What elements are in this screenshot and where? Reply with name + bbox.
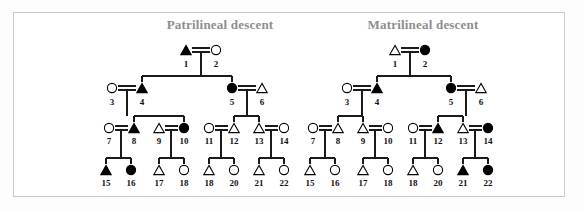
individual-id-label: 6	[260, 97, 265, 107]
individual-matrilineal-13[interactable]: 13	[458, 123, 468, 146]
symbol-male-affected[interactable]	[181, 45, 191, 54]
individual-patrilineal-22[interactable]: 22	[279, 165, 289, 188]
individual-matrilineal-1[interactable]: 1	[390, 45, 400, 69]
symbol-male-unaffected[interactable]	[333, 123, 343, 132]
individual-patrilineal-14[interactable]: 14	[279, 123, 289, 146]
mating-connector	[118, 86, 136, 116]
individual-matrilineal-21[interactable]: 21	[458, 165, 468, 188]
symbol-male-affected[interactable]	[101, 165, 111, 174]
individual-patrilineal-16[interactable]: 16	[126, 165, 136, 188]
symbol-male-unaffected[interactable]	[358, 123, 368, 132]
sibship-connector	[142, 76, 232, 82]
symbol-female-unaffected[interactable]	[104, 123, 113, 132]
symbol-female-unaffected[interactable]	[279, 123, 288, 132]
individual-matrilineal-22[interactable]: 22	[483, 165, 493, 188]
symbol-male-unaffected[interactable]	[154, 165, 164, 174]
individual-matrilineal-15[interactable]: 15	[305, 165, 315, 188]
individual-matrilineal-18[interactable]: 18	[383, 165, 393, 188]
individual-patrilineal-4[interactable]: 4	[137, 83, 147, 107]
symbol-male-unaffected[interactable]	[408, 165, 418, 174]
individual-patrilineal-10[interactable]: 10	[179, 123, 189, 146]
individual-matrilineal-4[interactable]: 4	[372, 83, 382, 107]
symbol-male-unaffected[interactable]	[458, 123, 468, 132]
symbol-male-unaffected[interactable]	[257, 83, 267, 92]
individual-id-label: 10	[180, 136, 190, 146]
individual-matrilineal-8[interactable]: 8	[333, 123, 343, 146]
symbol-female-unaffected[interactable]	[204, 123, 213, 132]
individual-matrilineal-16[interactable]: 16	[330, 165, 340, 188]
symbol-female-unaffected[interactable]	[383, 123, 392, 132]
symbol-female-unaffected[interactable]	[179, 165, 188, 174]
individual-matrilineal-17[interactable]: 17	[358, 165, 368, 188]
individual-matrilineal-2[interactable]: 2	[420, 45, 429, 69]
individual-matrilineal-3[interactable]: 3	[342, 83, 351, 107]
symbol-male-affected[interactable]	[372, 83, 382, 92]
individual-matrilineal-5[interactable]: 5	[446, 83, 455, 107]
symbol-female-unaffected[interactable]	[342, 83, 351, 92]
symbol-female-affected[interactable]	[483, 123, 492, 132]
symbol-female-unaffected[interactable]	[229, 165, 238, 174]
individual-matrilineal-6[interactable]: 6	[476, 83, 486, 107]
individual-patrilineal-3[interactable]: 3	[107, 83, 116, 107]
symbol-male-unaffected[interactable]	[204, 165, 214, 174]
individual-patrilineal-5[interactable]: 5	[227, 83, 236, 107]
symbol-male-unaffected[interactable]	[154, 123, 164, 132]
symbol-male-unaffected[interactable]	[229, 123, 239, 132]
individual-matrilineal-18b[interactable]: 18	[408, 165, 418, 188]
symbol-male-unaffected[interactable]	[254, 123, 264, 132]
individual-patrilineal-9[interactable]: 9	[154, 123, 164, 146]
individual-patrilineal-21[interactable]: 21	[254, 165, 264, 188]
individual-matrilineal-12[interactable]: 12	[433, 123, 443, 146]
symbol-female-affected[interactable]	[179, 123, 188, 132]
individual-patrilineal-15[interactable]: 15	[101, 165, 111, 188]
individual-matrilineal-10[interactable]: 10	[383, 123, 393, 146]
individual-matrilineal-9[interactable]: 9	[358, 123, 368, 146]
individual-matrilineal-14[interactable]: 14	[483, 123, 493, 146]
symbol-female-unaffected[interactable]	[279, 165, 288, 174]
individual-patrilineal-17[interactable]: 17	[154, 165, 164, 188]
symbol-male-unaffected[interactable]	[476, 83, 486, 92]
individual-id-label: 7	[107, 136, 112, 146]
individual-id-label: 18	[180, 178, 190, 188]
symbol-male-unaffected[interactable]	[358, 165, 368, 174]
individual-patrilineal-18b[interactable]: 18	[204, 165, 214, 188]
symbol-female-affected[interactable]	[227, 83, 236, 92]
individual-matrilineal-11[interactable]: 11	[408, 123, 417, 146]
symbol-female-unaffected[interactable]	[433, 165, 442, 174]
individual-id-label: 3	[110, 97, 115, 107]
individual-id-label: 2	[214, 59, 219, 69]
symbol-female-unaffected[interactable]	[383, 165, 392, 174]
individual-patrilineal-6[interactable]: 6	[257, 83, 267, 107]
symbol-male-affected[interactable]	[433, 123, 443, 132]
individual-patrilineal-18[interactable]: 18	[179, 165, 189, 188]
symbol-male-affected[interactable]	[458, 165, 468, 174]
individual-matrilineal-7[interactable]: 7	[308, 123, 317, 146]
individual-patrilineal-11[interactable]: 11	[204, 123, 213, 146]
symbol-female-unaffected[interactable]	[107, 83, 116, 92]
individual-matrilineal-20[interactable]: 20	[433, 165, 443, 188]
symbol-female-unaffected[interactable]	[211, 45, 220, 54]
sibship-connector	[463, 158, 488, 164]
individual-patrilineal-1[interactable]: 1	[181, 45, 191, 69]
symbol-male-unaffected[interactable]	[305, 165, 315, 174]
symbol-female-unaffected[interactable]	[330, 165, 339, 174]
symbol-female-affected[interactable]	[420, 45, 429, 54]
symbol-male-affected[interactable]	[137, 83, 147, 92]
individual-patrilineal-7[interactable]: 7	[104, 123, 113, 146]
individual-patrilineal-13[interactable]: 13	[254, 123, 264, 146]
individual-patrilineal-20[interactable]: 20	[229, 165, 239, 188]
symbol-female-affected[interactable]	[483, 165, 492, 174]
individual-patrilineal-2[interactable]: 2	[211, 45, 220, 69]
symbol-female-affected[interactable]	[446, 83, 455, 92]
symbol-female-affected[interactable]	[126, 165, 135, 174]
symbol-male-affected[interactable]	[129, 123, 139, 132]
symbol-female-unaffected[interactable]	[408, 123, 417, 132]
individual-patrilineal-12[interactable]: 12	[229, 123, 239, 146]
individual-id-label: 18	[205, 178, 215, 188]
individual-patrilineal-8[interactable]: 8	[129, 123, 139, 146]
symbol-male-unaffected[interactable]	[254, 165, 264, 174]
symbol-female-unaffected[interactable]	[308, 123, 317, 132]
pedigree-figure: 1234567891011121314151617181820212212345…	[0, 0, 583, 210]
individual-id-label: 8	[336, 136, 341, 146]
symbol-male-unaffected[interactable]	[390, 45, 400, 54]
